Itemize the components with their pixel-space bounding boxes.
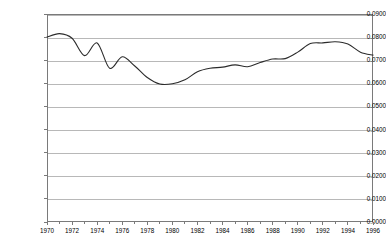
gridline-horizontal [48,15,372,16]
x-tick-mark [222,222,223,225]
y-tick-mark [44,14,47,15]
x-tick-mark [247,222,248,225]
y-tick-label: 0.0900 [342,10,386,17]
y-tick-mark [44,37,47,38]
x-tick-mark-minor [134,222,135,224]
x-tick-mark-minor [84,222,85,224]
y-tick-mark [44,106,47,107]
y-tick-label: 0.0100 [342,195,386,202]
gridline-horizontal [48,176,372,177]
y-tick-mark [44,60,47,61]
x-tick-label: 1974 [84,227,110,235]
x-tick-mark-minor [210,222,211,224]
x-tick-label: 1994 [335,227,361,235]
x-tick-mark-minor [310,222,311,224]
x-tick-label: 1988 [260,227,286,235]
y-tick-mark [44,175,47,176]
x-tick-mark [373,222,374,225]
x-tick-label: 1992 [310,227,336,235]
y-tick-label: 0.0200 [342,172,386,179]
x-tick-label: 1996 [360,227,386,235]
x-tick-mark [122,222,123,225]
x-tick-mark [197,222,198,225]
x-tick-label: 1990 [285,227,311,235]
y-tick-label: 0.0600 [342,79,386,86]
x-tick-mark-minor [59,222,60,224]
y-tick-mark [44,152,47,153]
x-tick-mark-minor [159,222,160,224]
y-tick-mark [44,83,47,84]
plot-area [47,14,373,222]
x-tick-mark [272,222,273,225]
x-tick-label: 1986 [235,227,261,235]
x-tick-mark-minor [184,222,185,224]
x-tick-mark [297,222,298,225]
y-tick-mark [44,198,47,199]
x-tick-label: 1972 [59,227,85,235]
gridline-horizontal [48,130,372,131]
y-tick-label: 0.0400 [342,126,386,133]
x-tick-label: 1978 [134,227,160,235]
x-tick-mark [97,222,98,225]
gridline-horizontal [48,199,372,200]
x-tick-mark [72,222,73,225]
x-tick-mark-minor [335,222,336,224]
y-tick-label: 0.0700 [342,56,386,63]
y-tick-label: 0.0800 [342,33,386,40]
x-tick-label: 1984 [210,227,236,235]
x-tick-mark-minor [260,222,261,224]
line-chart: 0.09000.08000.07000.06000.05000.04000.03… [0,0,386,252]
x-tick-label: 1970 [34,227,60,235]
gridline-horizontal [48,107,372,108]
gridline-horizontal [48,84,372,85]
x-tick-mark-minor [109,222,110,224]
x-tick-mark [147,222,148,225]
y-tick-label: 0.0300 [342,149,386,156]
x-tick-mark [47,222,48,225]
y-tick-label: 0.0000 [342,218,386,225]
x-tick-mark [322,222,323,225]
x-tick-mark [347,222,348,225]
x-tick-mark-minor [235,222,236,224]
x-tick-label: 1976 [109,227,135,235]
x-tick-label: 1980 [159,227,185,235]
gridline-horizontal [48,61,372,62]
x-tick-mark [172,222,173,225]
y-tick-label: 0.0500 [342,102,386,109]
x-tick-label: 1982 [184,227,210,235]
gridline-horizontal [48,38,372,39]
x-tick-mark-minor [360,222,361,224]
x-tick-mark-minor [285,222,286,224]
y-tick-mark [44,129,47,130]
gridline-horizontal [48,153,372,154]
